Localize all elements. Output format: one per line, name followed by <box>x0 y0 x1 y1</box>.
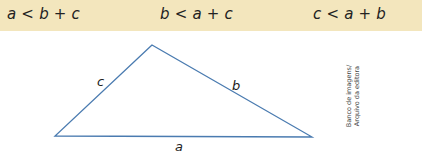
image-credit: Banco de imagens/ Arquivo da editora <box>345 61 361 131</box>
credit-line-2: Arquivo da editora <box>353 61 361 131</box>
side-label-c: c <box>97 74 104 89</box>
side-label-b: b <box>232 78 240 93</box>
triangle-shape <box>55 45 312 137</box>
triangle-figure <box>0 0 438 162</box>
side-label-a: a <box>175 139 183 154</box>
credit-line-1: Banco de imagens/ <box>345 61 353 131</box>
